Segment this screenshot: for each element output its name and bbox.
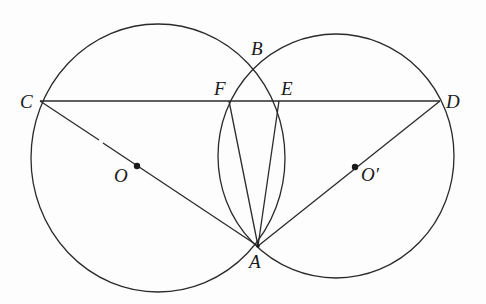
label-o-prime: O′ (361, 164, 380, 185)
segment-ca-part1 (40, 101, 99, 140)
label-d: D (445, 91, 460, 112)
label-f: F (213, 78, 226, 99)
segment-ca-part2 (103, 143, 258, 246)
center-dot-o (134, 163, 140, 169)
label-o: O (114, 165, 128, 186)
label-c: C (20, 91, 33, 112)
point-a-dot (256, 244, 260, 248)
geometry-diagram: C F B E D O O′ A (0, 0, 486, 304)
label-a: A (247, 251, 261, 272)
label-e: E (280, 78, 293, 99)
segment-fa (229, 101, 258, 246)
segment-da (258, 101, 440, 246)
center-dot-o-prime (352, 164, 358, 170)
label-b: B (251, 38, 263, 59)
circle-o (31, 24, 285, 292)
circle-o-prime (218, 34, 454, 278)
